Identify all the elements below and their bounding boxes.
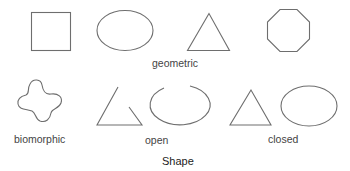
shapes-canvas [0, 0, 350, 171]
geometric-label: geometric [152, 58, 198, 69]
geometric-triangle-shape [188, 14, 230, 51]
biomorphic-blob-shape [18, 80, 62, 122]
geometric-ellipse-shape [97, 11, 153, 51]
open-label: open [145, 135, 168, 146]
biomorphic-label: biomorphic [14, 134, 65, 145]
closed-ellipse-shape [281, 86, 337, 126]
open-triangle-shape [97, 87, 142, 125]
open-ellipse-shape [150, 86, 210, 125]
geometric-square-shape [32, 13, 71, 51]
closed-label: closed [268, 134, 298, 145]
closed-triangle-shape [230, 90, 271, 125]
geometric-octagon-shape [268, 10, 310, 52]
diagram-title: Shape [162, 156, 194, 167]
shape-diagram: geometric biomorphic open closed Shape [0, 0, 350, 171]
